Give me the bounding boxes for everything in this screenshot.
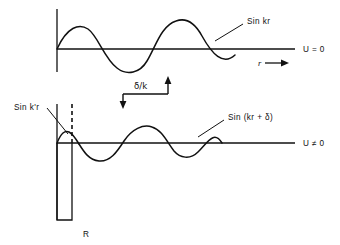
sin-kr-curve xyxy=(57,20,235,73)
physics-schematic-diagram: Sin kr U = 0 r δ/k xyxy=(0,0,340,245)
potential-well-rect xyxy=(57,143,72,220)
sin-k-prime-r-label: Sin k'r xyxy=(14,103,39,112)
sin-kr-label: Sin kr xyxy=(247,17,270,26)
shift-up-arrow-icon xyxy=(165,76,172,84)
radial-axis-annotation: r xyxy=(258,58,289,68)
top-condition-label: U = 0 xyxy=(303,45,325,54)
r-arrow-icon xyxy=(281,60,289,67)
delta-over-k-label: δ/k xyxy=(134,81,147,91)
figure-canvas: Sin kr U = 0 r δ/k xyxy=(0,0,340,245)
shift-down-arrow-icon xyxy=(120,101,127,109)
sin-kr-leader-line xyxy=(215,24,243,41)
sin-kr-plus-delta-label: Sin (kr + δ) xyxy=(228,113,273,122)
sin-kr-plus-delta-leader-line xyxy=(198,120,224,137)
r-axis-label: r xyxy=(258,58,262,68)
well-width-label: R xyxy=(83,230,89,239)
shifted-wave-panel: R Sin (kr + δ) Sin k'r U ≠ 0 xyxy=(14,103,325,239)
phase-shift-marker: δ/k xyxy=(120,76,172,109)
free-wave-panel: Sin kr U = 0 r xyxy=(57,9,325,72)
bottom-condition-label: U ≠ 0 xyxy=(303,139,325,148)
